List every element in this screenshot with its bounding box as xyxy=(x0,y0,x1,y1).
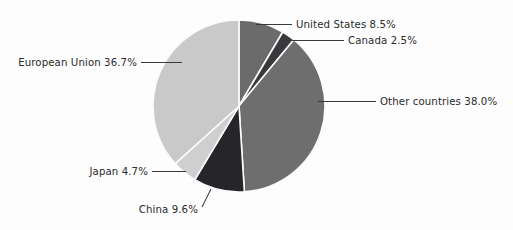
pie-label-other-countries: Other countries 38.0% xyxy=(380,96,497,107)
pie-slices-group xyxy=(153,20,325,192)
pie-chart-figure: United States 8.5% Canada 2.5% Other cou… xyxy=(0,0,513,230)
pie-label-canada: Canada 2.5% xyxy=(348,35,417,46)
pie-label-china: China 9.6% xyxy=(139,204,198,215)
pie-label-european-union: European Union 36.7% xyxy=(18,57,137,68)
pie-chart-svg: United States 8.5% Canada 2.5% Other cou… xyxy=(0,0,513,230)
pie-label-japan: Japan 4.7% xyxy=(88,166,148,177)
leader-line-china xyxy=(202,189,211,207)
pie-label-united-states: United States 8.5% xyxy=(296,19,396,30)
